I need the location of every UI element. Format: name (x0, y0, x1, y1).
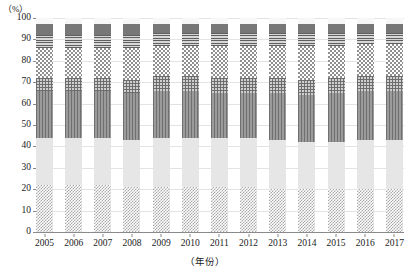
x-tick-mark (394, 234, 395, 237)
bar-segment-3 (94, 91, 111, 138)
bar-segment-4 (386, 76, 403, 91)
bar-segment-3 (211, 93, 228, 138)
bar-segment-7 (153, 24, 170, 33)
bar-segment-2 (298, 142, 315, 189)
bar-segment-1 (298, 189, 315, 232)
bar-2007[interactable] (94, 18, 111, 232)
bar-segment-6 (357, 33, 374, 44)
y-tick-label: 20 (0, 184, 31, 194)
x-tick-mark (131, 234, 132, 237)
y-tick-label: 10 (0, 206, 31, 216)
y-tick-label: 80 (0, 56, 31, 66)
bar-segment-4 (240, 78, 257, 93)
x-tick-label-text: 2005 (35, 238, 54, 248)
bar-segment-7 (36, 24, 53, 35)
bar-segment-4 (211, 78, 228, 93)
x-tick-label-text: 2015 (327, 238, 346, 248)
y-tick-label: 40 (0, 141, 31, 151)
y-tick-label: 0 (0, 227, 31, 237)
bar-segment-3 (269, 93, 286, 140)
x-tick-mark (277, 234, 278, 237)
bar-segment-1 (36, 185, 53, 232)
bar-segment-1 (153, 187, 170, 232)
bar-segment-4 (65, 78, 82, 91)
bar-segment-2 (357, 140, 374, 189)
bar-segment-2 (65, 138, 82, 185)
y-tick-label: 70 (0, 77, 31, 87)
x-tick-label-text: 2014 (297, 238, 316, 248)
bar-series-container (36, 18, 403, 232)
bar-segment-1 (357, 189, 374, 232)
x-tick-mark (219, 234, 220, 237)
bar-segment-6 (269, 33, 286, 46)
y-tick-label: 30 (0, 163, 31, 173)
bar-segment-4 (153, 76, 170, 91)
x-tick-mark (336, 234, 337, 237)
bar-segment-5 (182, 46, 199, 76)
bar-segment-1 (211, 187, 228, 232)
x-tick-label-text: 2006 (64, 238, 83, 248)
bar-segment-6 (211, 33, 228, 46)
bar-segment-7 (123, 24, 140, 35)
bar-segment-4 (123, 80, 140, 93)
y-tick-mark (33, 232, 36, 233)
bar-segment-2 (153, 138, 170, 187)
bar-segment-6 (36, 35, 53, 48)
bar-segment-6 (65, 35, 82, 48)
bar-2006[interactable] (65, 18, 82, 232)
bar-segment-1 (328, 189, 345, 232)
bar-segment-1 (123, 187, 140, 232)
bar-2010[interactable] (182, 18, 199, 232)
bar-segment-3 (357, 91, 374, 140)
bar-2005[interactable] (36, 18, 53, 232)
x-tick-label-text: 2017 (385, 238, 404, 248)
bar-2013[interactable] (269, 18, 286, 232)
x-tick-mark (102, 234, 103, 237)
x-tick-mark (44, 234, 45, 237)
bar-segment-4 (328, 78, 345, 93)
bar-segment-3 (298, 95, 315, 142)
bar-2008[interactable] (123, 18, 140, 232)
bar-segment-7 (328, 24, 345, 33)
bar-segment-5 (386, 44, 403, 76)
bar-2016[interactable] (357, 18, 374, 232)
bar-segment-6 (123, 35, 140, 48)
y-tick-label: 50 (0, 120, 31, 130)
x-tick-mark (365, 234, 366, 237)
x-tick-label-text: 2009 (152, 238, 171, 248)
x-tick-mark (190, 234, 191, 237)
bar-2015[interactable] (328, 18, 345, 232)
bar-segment-2 (36, 138, 53, 185)
bar-segment-2 (123, 140, 140, 187)
bar-segment-7 (182, 24, 199, 33)
bar-segment-7 (269, 24, 286, 33)
x-axis-line (36, 232, 404, 233)
y-tick-label: 100 (0, 13, 31, 23)
bar-2012[interactable] (240, 18, 257, 232)
bar-segment-6 (182, 33, 199, 46)
bar-segment-5 (240, 46, 257, 78)
y-tick-label: 90 (0, 34, 31, 44)
x-tick-label-text: 2011 (210, 238, 229, 248)
bar-segment-1 (182, 187, 199, 232)
bar-segment-7 (240, 24, 257, 33)
bar-segment-5 (65, 48, 82, 78)
bar-segment-4 (36, 78, 53, 91)
bar-segment-4 (182, 76, 199, 91)
bar-segment-3 (328, 93, 345, 142)
bar-segment-7 (94, 24, 111, 35)
x-tick-label-text: 2016 (356, 238, 375, 248)
bar-2009[interactable] (153, 18, 170, 232)
bar-segment-6 (94, 35, 111, 48)
bar-segment-2 (94, 138, 111, 185)
bar-2017[interactable] (386, 18, 403, 232)
bar-segment-7 (211, 24, 228, 33)
bar-segment-7 (386, 24, 403, 33)
x-tick-mark (161, 234, 162, 237)
bar-2014[interactable] (298, 18, 315, 232)
y-tick-label: 60 (0, 99, 31, 109)
bar-segment-3 (182, 91, 199, 138)
bar-2011[interactable] (211, 18, 228, 232)
bar-segment-5 (269, 46, 286, 78)
bar-segment-5 (123, 48, 140, 80)
